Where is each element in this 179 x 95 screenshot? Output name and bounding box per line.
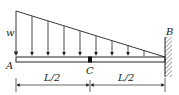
beam-diagram: w A B C L/2 L/2 <box>0 0 179 95</box>
point-b-label: B <box>165 26 173 37</box>
point-c-label: C <box>86 65 94 76</box>
dimension-lines <box>16 78 165 92</box>
fixed-support <box>165 37 172 77</box>
point-c-marker <box>88 57 92 63</box>
load-label: w <box>6 27 15 38</box>
dim-left-label: L/2 <box>43 72 60 83</box>
point-a-label: A <box>5 60 13 71</box>
dim-right-label: L/2 <box>117 72 134 83</box>
triangular-load <box>16 11 165 57</box>
